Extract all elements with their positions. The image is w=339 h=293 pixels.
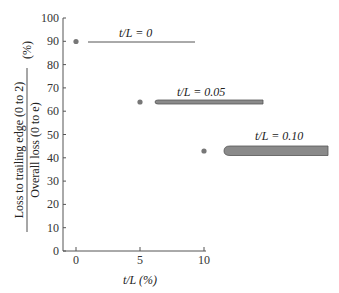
y-tick-label: 40 [47, 151, 59, 165]
y-tick-label: 90 [47, 34, 59, 48]
annotation-t010: t/L = 0.10 [255, 129, 303, 143]
x-tick-label: 10 [198, 253, 210, 267]
y-ticks: 0 10 20 30 40 50 60 70 80 90 100 [41, 11, 66, 258]
profile-thin-blade [155, 100, 263, 104]
y-tick-label: 10 [47, 221, 59, 235]
y-label-denominator: Overall loss (0 to e) [28, 102, 42, 197]
annotation-t0: t/L = 0 [119, 26, 152, 40]
data-point [201, 148, 206, 153]
y-label-numerator: Loss to trailing edge (0 to 2) [12, 82, 26, 219]
y-label-unit: (%) [20, 41, 34, 59]
annotation-t005: t/L = 0.05 [177, 85, 225, 99]
x-tick-label: 0 [73, 253, 79, 267]
y-tick-label: 50 [47, 128, 59, 142]
x-axis-label: t/L (%) [123, 273, 157, 287]
y-tick-label: 30 [47, 174, 59, 188]
chart: 0 10 20 30 40 50 60 70 80 90 100 0 5 10 … [0, 0, 339, 293]
y-tick-label: 20 [47, 197, 59, 211]
y-tick-label: 60 [47, 104, 59, 118]
y-tick-label: 0 [53, 244, 59, 258]
data-point [137, 99, 142, 104]
y-tick-label: 100 [41, 11, 59, 25]
y-tick-label: 80 [47, 58, 59, 72]
profile-thick-blade [224, 146, 328, 156]
data-point [73, 39, 78, 44]
x-tick-label: 5 [137, 253, 143, 267]
y-tick-label: 70 [47, 81, 59, 95]
y-axis-label: Loss to trailing edge (0 to 2) Overall l… [12, 41, 42, 232]
x-ticks: 0 5 10 [73, 247, 210, 267]
